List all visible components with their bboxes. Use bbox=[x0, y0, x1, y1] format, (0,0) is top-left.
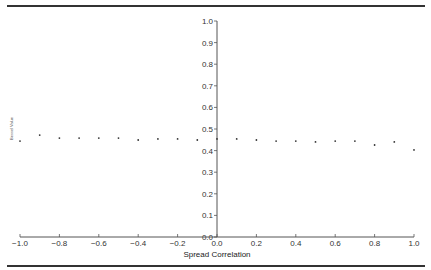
x-tick-label: 0.0 bbox=[211, 239, 223, 248]
y-tick-label: 0.8 bbox=[202, 60, 214, 69]
data-point bbox=[118, 137, 120, 139]
data-point bbox=[256, 139, 258, 141]
y-tick-label: 0.7 bbox=[202, 82, 214, 91]
data-point bbox=[413, 149, 415, 151]
data-point bbox=[177, 138, 179, 140]
data-point bbox=[98, 137, 100, 139]
x-tick-label: 0.6 bbox=[330, 239, 342, 248]
data-point bbox=[275, 140, 277, 142]
x-axis-title: Spread Correlation bbox=[183, 250, 250, 259]
data-point bbox=[157, 138, 159, 140]
y-tick-label: 0.4 bbox=[202, 147, 214, 156]
x-tick-label: 0.8 bbox=[369, 239, 381, 248]
y-axis-title: Bessel Value bbox=[9, 116, 14, 140]
x-tick-label: 0.4 bbox=[290, 239, 302, 248]
data-point bbox=[295, 140, 297, 142]
scatter-chart: 0.00.10.20.30.40.50.60.70.80.91.0 −1.0−0… bbox=[0, 0, 431, 270]
data-point bbox=[374, 144, 376, 146]
bottom-rule bbox=[7, 265, 425, 267]
x-tick-label: −0.8 bbox=[52, 239, 68, 248]
data-point bbox=[315, 141, 317, 143]
data-point bbox=[236, 138, 238, 140]
y-tick-label: 0.2 bbox=[202, 190, 214, 199]
data-point bbox=[78, 137, 80, 139]
x-axis: −1.0−0.8−0.6−0.4−0.20.00.20.40.60.81.0 bbox=[12, 234, 420, 248]
data-point bbox=[354, 140, 356, 142]
x-tick-label: −0.4 bbox=[130, 239, 146, 248]
x-tick-label: 0.2 bbox=[251, 239, 263, 248]
data-point bbox=[196, 139, 198, 141]
data-point bbox=[19, 140, 21, 142]
data-point bbox=[137, 139, 139, 141]
data-point bbox=[216, 138, 218, 140]
y-tick-label: 0.9 bbox=[202, 39, 214, 48]
x-tick-label: 1.0 bbox=[408, 239, 420, 248]
data-point bbox=[39, 134, 41, 136]
y-tick-label: 1.0 bbox=[202, 17, 214, 26]
y-tick-label: 0.1 bbox=[202, 211, 214, 220]
y-tick-label: 0.3 bbox=[202, 168, 214, 177]
y-tick-label: 0.5 bbox=[202, 125, 214, 134]
data-point bbox=[393, 141, 395, 143]
data-point bbox=[59, 137, 61, 139]
y-tick-label: 0.6 bbox=[202, 103, 214, 112]
y-axis: 0.00.10.20.30.40.50.60.70.80.91.0 bbox=[202, 17, 217, 242]
data-point bbox=[334, 140, 336, 142]
x-tick-label: −0.6 bbox=[91, 239, 107, 248]
x-tick-label: −0.2 bbox=[170, 239, 186, 248]
x-tick-label: −1.0 bbox=[12, 239, 28, 248]
